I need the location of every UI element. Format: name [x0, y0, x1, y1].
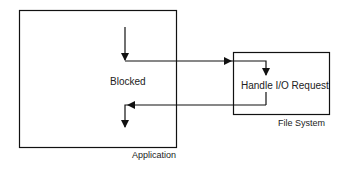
blocked-label: Blocked	[110, 76, 146, 87]
application-box	[20, 11, 177, 148]
application-label: Application	[132, 150, 176, 160]
handle-io-request-label: Handle I/O Request	[241, 80, 329, 91]
arrow-into-handler	[231, 61, 266, 75]
file-system-label: File System	[278, 118, 325, 128]
arrow-resume	[125, 105, 128, 127]
